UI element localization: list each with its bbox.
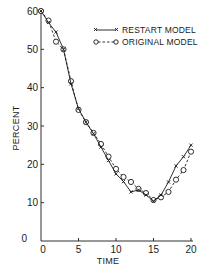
legend-label-restart: RESTART MODEL xyxy=(122,25,196,35)
legend-item-original: ORIGINAL MODEL xyxy=(94,37,198,47)
y-tick-label: 60 xyxy=(27,6,39,17)
x-marker-icon xyxy=(182,155,185,158)
y-tick-label: 0 xyxy=(21,233,27,244)
y-tick-label: 40 xyxy=(27,82,39,93)
x-tick-label: 20 xyxy=(185,244,197,255)
line-chart: 0102030405060 05101520 RESTART MODEL ORI… xyxy=(0,0,207,275)
circle-marker-icon xyxy=(188,149,193,154)
y-tick-label: 20 xyxy=(27,159,39,170)
circle-marker-icon xyxy=(181,167,186,172)
y-tick-label: 10 xyxy=(27,197,39,208)
x-axis-title: TIME xyxy=(97,256,120,266)
legend-circle-marker-icon xyxy=(114,40,118,44)
x-tick-label: 5 xyxy=(76,244,82,255)
legend-item-restart: RESTART MODEL xyxy=(94,25,196,35)
x-tick-label: 0 xyxy=(40,244,46,255)
y-tick-label: 50 xyxy=(27,44,39,55)
legend-label-original: ORIGINAL MODEL xyxy=(122,37,198,47)
x-marker-icon xyxy=(174,164,177,167)
x-tick-label: 10 xyxy=(110,244,122,255)
y-axis-title: PERCENT xyxy=(11,105,21,150)
legend: RESTART MODEL ORIGINAL MODEL xyxy=(94,25,198,47)
x-marker-icon xyxy=(122,180,125,183)
legend-x-marker-icon xyxy=(94,28,97,31)
circle-marker-icon xyxy=(53,39,58,44)
legend-circle-marker-icon xyxy=(94,40,98,44)
circle-marker-icon xyxy=(173,177,178,182)
x-marker-icon xyxy=(189,144,192,147)
y-tick-label: 30 xyxy=(27,121,39,132)
x-tick-label: 15 xyxy=(148,244,160,255)
legend-x-marker-icon xyxy=(115,28,118,31)
x-marker-icon xyxy=(114,172,117,175)
circle-marker-icon xyxy=(121,174,126,179)
circle-marker-icon xyxy=(128,179,133,184)
circle-marker-icon xyxy=(166,189,171,194)
x-marker-icon xyxy=(167,180,170,183)
